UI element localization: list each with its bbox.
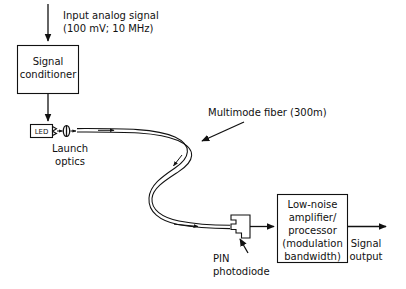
amplifier-label-line2: amplifier/ [289,212,337,223]
launch-optics-label-line1: Launch [52,143,88,154]
fiber-pointer-arrow-icon [202,122,244,141]
diagram-canvas: Input analog signal (100 mV; 10 MHz) Sig… [0,0,406,289]
launch-optics-label-line2: optics [55,156,85,167]
amplifier-label-line3: processor [288,225,338,236]
amplifier-label-line5: bandwidth) [284,251,341,262]
multimode-fiber-path [77,129,230,229]
signal-output-label-line1: Signal [351,238,382,249]
signal-conditioner-label-line2: conditioner [20,69,77,80]
signal-output-label-line2: output [350,251,383,262]
pin-photodiode-label-line2: photodiode [213,266,270,277]
photodiode-pointer-arrow-icon [240,239,248,253]
input-signal-label-line1: Input analog signal [63,10,159,21]
fiber-link-diagram: Input analog signal (100 mV; 10 MHz) Sig… [0,0,406,289]
amplifier-label-line1: Low-noise [288,199,338,210]
amplifier-label-line4: (modulation [282,238,343,249]
pin-photodiode-label-line1: PIN [213,253,229,264]
led-label: LED [35,128,49,136]
input-signal-label-line2: (100 mV; 10 MHz) [63,23,154,34]
multimode-fiber-label: Multimode fiber (300m) [208,107,327,118]
lens-ellipse-icon [63,125,69,136]
pin-photodiode-symbol [231,215,250,238]
signal-conditioner-label-line1: Signal [33,56,64,67]
